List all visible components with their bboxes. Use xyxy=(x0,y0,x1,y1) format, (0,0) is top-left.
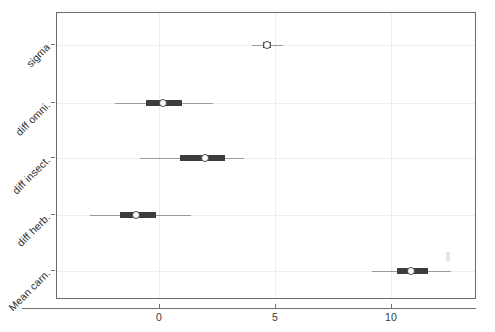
point-estimate-diff-omni xyxy=(159,99,167,107)
xtick-label-5: 5 xyxy=(272,311,278,323)
artifact-speck xyxy=(446,252,450,261)
xtick-10 xyxy=(391,304,392,308)
xtick-0 xyxy=(159,304,160,308)
ytick-diff-omni xyxy=(51,102,55,103)
point-estimate-sigma xyxy=(263,41,271,49)
point-estimate-diff-herb xyxy=(132,211,140,219)
posterior-interval-chart: sigma diff omni. diff insect. diff herb.… xyxy=(0,0,495,332)
interval-row-mean-carn xyxy=(57,265,475,279)
ytick-label-sigma: sigma xyxy=(3,41,52,90)
interval-row-diff-omni xyxy=(57,97,475,111)
x-axis-line xyxy=(22,308,476,309)
xtick-5 xyxy=(275,304,276,308)
ytick-mean-carn xyxy=(51,270,55,271)
point-estimate-mean-carn xyxy=(407,267,415,275)
ytick-label-diff-insect: diff insect. xyxy=(3,154,52,203)
ytick-label-diff-herb: diff herb. xyxy=(3,211,52,260)
interval-row-sigma xyxy=(57,39,475,53)
interval-row-diff-herb xyxy=(57,209,475,223)
xtick-label-0: 0 xyxy=(156,311,162,323)
xtick-label-10: 10 xyxy=(385,311,397,323)
ytick-diff-herb xyxy=(51,214,55,215)
ytick-sigma xyxy=(51,44,55,45)
plot-area xyxy=(56,12,476,299)
interval-row-diff-insect xyxy=(57,152,475,166)
ytick-diff-insect xyxy=(51,157,55,158)
ytick-label-diff-omni: diff omni. xyxy=(3,99,52,148)
point-estimate-diff-insect xyxy=(201,154,209,162)
